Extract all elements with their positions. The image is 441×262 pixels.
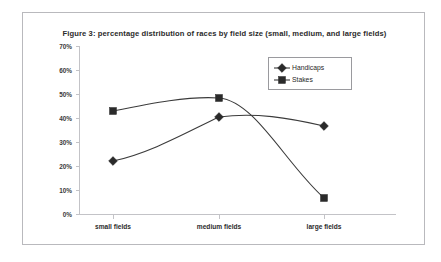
- y-tick-label-70: 70%: [59, 43, 72, 50]
- data-point-stakes-large-fields: [321, 195, 328, 202]
- y-tick-label-40: 40%: [59, 115, 72, 122]
- data-point-handicaps-medium-fields: [215, 113, 224, 122]
- series-line-stakes: [113, 98, 324, 198]
- y-tick-label-50: 50%: [59, 91, 72, 98]
- y-tick-label-10: 10%: [59, 187, 72, 194]
- y-tick-label-0: 0%: [63, 211, 73, 218]
- chart-legend: Handicaps Stakes: [269, 58, 352, 90]
- legend-item-stakes[interactable]: Stakes: [274, 76, 313, 83]
- legend-label-handicaps: Handicaps: [292, 64, 325, 72]
- legend-item-handicaps[interactable]: Handicaps: [274, 64, 325, 73]
- y-tick-label-60: 60%: [59, 67, 72, 74]
- square-marker-icon: [279, 77, 286, 84]
- data-point-handicaps-large-fields: [320, 122, 329, 131]
- x-tick-label-small-fields: small fields: [95, 223, 131, 230]
- x-tick-label-large-fields: large fields: [307, 223, 342, 231]
- y-tick-label-20: 20%: [59, 163, 72, 170]
- line-chart-svg: 70% 60% 50% 40% 30% 20% 10% 0% small fie…: [23, 13, 426, 246]
- y-tick-label-30: 30%: [59, 139, 72, 146]
- legend-label-stakes: Stakes: [292, 76, 313, 83]
- x-tick-label-medium-fields: medium fields: [197, 223, 242, 230]
- data-point-stakes-medium-fields: [216, 95, 223, 102]
- chart-plot-area: 70% 60% 50% 40% 30% 20% 10% 0% small fie…: [23, 13, 426, 246]
- figure-frame: Figure 3: percentage distribution of rac…: [22, 12, 425, 245]
- series-line-handicaps: [113, 115, 324, 161]
- data-point-handicaps-small-fields: [109, 157, 118, 166]
- legend-box: [269, 58, 352, 90]
- data-point-stakes-small-fields: [110, 108, 117, 115]
